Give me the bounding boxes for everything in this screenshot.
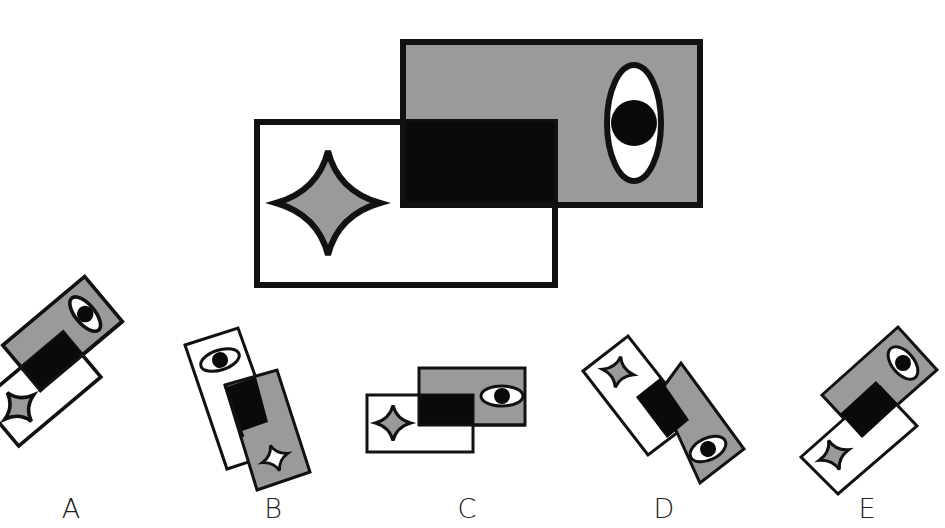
main-figure bbox=[257, 42, 700, 285]
option-a-label[interactable]: A bbox=[62, 493, 80, 524]
eye-icon bbox=[481, 386, 523, 406]
option-c-figure[interactable] bbox=[367, 368, 525, 452]
black-overlap bbox=[403, 122, 555, 205]
option-d-label[interactable]: D bbox=[654, 493, 675, 524]
eye-icon bbox=[607, 65, 661, 181]
puzzle-canvas bbox=[0, 0, 945, 528]
option-e-figure[interactable] bbox=[801, 327, 937, 494]
option-d-figure[interactable] bbox=[583, 336, 744, 483]
option-a-figure[interactable] bbox=[0, 276, 141, 446]
option-c-label[interactable]: C bbox=[458, 493, 477, 524]
option-e-label[interactable]: E bbox=[858, 493, 875, 524]
option-b-label[interactable]: B bbox=[264, 493, 282, 524]
option-b-figure[interactable] bbox=[185, 328, 310, 490]
